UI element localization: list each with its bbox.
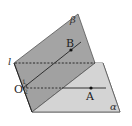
label-angle-2: 2 [24, 88, 28, 95]
label-angle-1: 1 [22, 78, 26, 85]
dihedral-angle-diagram: β α l O B A 1 2 [0, 0, 132, 126]
diagram-canvas: β α l O B A 1 2 [0, 0, 132, 126]
label-alpha: α [110, 101, 117, 112]
label-A: A [85, 90, 95, 103]
label-beta: β [69, 14, 76, 25]
label-l: l [8, 56, 11, 67]
label-B: B [66, 37, 74, 50]
